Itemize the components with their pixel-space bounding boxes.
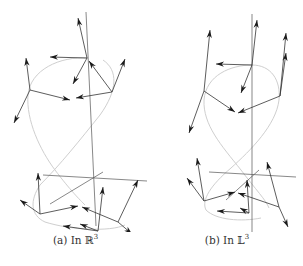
frame-vector	[82, 207, 118, 222]
caption-b-label: (b) In	[205, 234, 238, 246]
caption-a-space: ℝ	[85, 234, 94, 246]
frame-vector	[238, 96, 280, 113]
panel-a-r3: (a) In ℝ3	[0, 0, 151, 266]
panel-b-l3: (b) In 𝕃3	[151, 0, 303, 266]
arrowhead-icon	[187, 178, 194, 186]
frame-vector	[238, 193, 279, 207]
arrowhead-icon	[132, 180, 138, 188]
arrowhead-icon	[227, 105, 235, 112]
frame-vector	[204, 30, 210, 91]
arrowhead-icon	[14, 115, 20, 123]
arrowhead-icon	[20, 200, 28, 207]
caption-a-label: (a) In	[53, 234, 85, 246]
diagram-b	[151, 0, 303, 232]
frame-vector	[267, 162, 279, 207]
axis-line	[86, 12, 96, 226]
axis-line	[43, 175, 147, 181]
helix-curve	[28, 58, 125, 229]
diagram-a	[0, 0, 151, 232]
arrowhead-icon	[89, 61, 96, 69]
frame-vector	[118, 180, 138, 222]
frame-vector	[30, 90, 70, 100]
frame-vector	[197, 158, 204, 201]
arrowhead-icon	[73, 76, 79, 84]
frame-vector	[280, 33, 286, 96]
caption-a-exp: 3	[94, 233, 98, 241]
caption-a: (a) In ℝ3	[0, 233, 151, 246]
caption-b-space: 𝕃	[237, 234, 244, 246]
frame-vector	[189, 91, 204, 133]
frame-vector	[78, 18, 87, 58]
frame-vector	[204, 91, 235, 112]
caption-b-exp: 3	[245, 233, 249, 241]
caption-b: (b) In 𝕃3	[151, 233, 303, 246]
arrowhead-icon	[124, 227, 132, 232]
frame-vector	[40, 206, 78, 214]
